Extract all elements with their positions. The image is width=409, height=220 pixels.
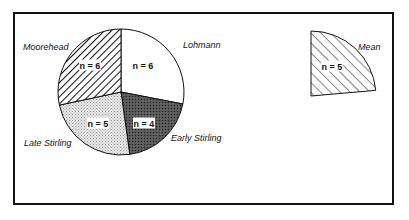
slice-label-lohmann: Lohmann — [183, 40, 221, 50]
slice-label-mean: Mean — [358, 42, 381, 52]
pie-chart-observers: n = 6Lohmannn = 4Early Stirlingn = 5Late… — [23, 29, 222, 155]
n-count-moorehead: n = 6 — [80, 61, 101, 71]
slice-label-late-stirling: Late Stirling — [24, 138, 72, 148]
figure: n = 6Lohmannn = 4Early Stirlingn = 5Late… — [0, 0, 409, 220]
slice-label-moorehead: Moorehead — [23, 42, 70, 52]
n-count-mean: n = 5 — [322, 62, 343, 72]
n-count-late-stirling: n = 5 — [88, 119, 109, 129]
pie-chart-mean: n = 5Mean — [311, 31, 381, 96]
n-count-lohmann: n = 6 — [133, 61, 154, 71]
slice-label-early-stirling: Early Stirling — [171, 133, 222, 143]
n-count-early-stirling: n = 4 — [134, 119, 155, 129]
